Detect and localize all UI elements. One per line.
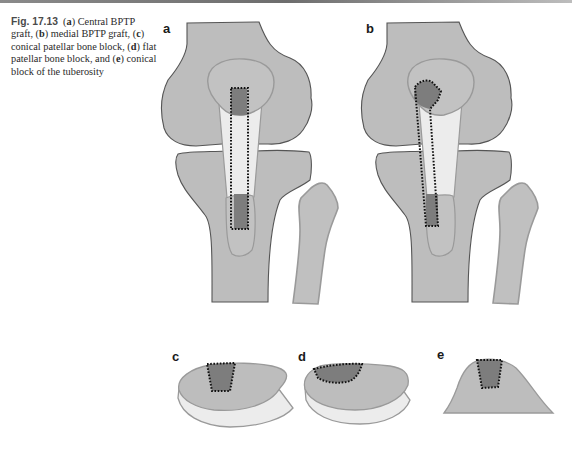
panel-b-label: b [366, 21, 374, 36]
panel-a-label: a [163, 21, 171, 36]
panel-d-label: d [298, 349, 306, 364]
panel-a-knee [161, 22, 338, 304]
panel-e: e [437, 347, 553, 413]
panel-a: a [161, 21, 338, 304]
panel-b-knee [361, 22, 538, 304]
panel-d: d [298, 349, 410, 424]
panel-e-label: e [437, 347, 444, 362]
knee-graft-diagram: a b c d e [0, 0, 572, 449]
panel-b: b [361, 21, 538, 304]
panel-a-tibial-block [234, 194, 248, 229]
panel-c: c [172, 349, 293, 427]
panel-a-patellar-block [231, 88, 247, 115]
panel-c-label: c [172, 349, 179, 364]
